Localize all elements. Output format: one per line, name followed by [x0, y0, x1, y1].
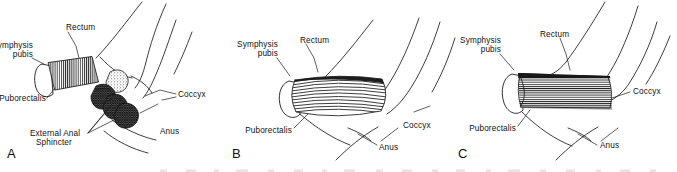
- label-external-anal-sphincter-a-line1: External Anal: [30, 129, 80, 138]
- panel-letter-b: B: [232, 146, 241, 161]
- label-symphysis-pubis-a-line2: pubis: [13, 50, 33, 59]
- figure-canvas: Symphysis pubis Rectum Puborectalis Exte…: [0, 0, 677, 172]
- label-rectum-b: Rectum: [300, 36, 329, 45]
- label-external-anal-sphincter-a-line2: Sphincter: [36, 138, 72, 147]
- label-anus-a: Anus: [160, 127, 179, 136]
- label-puborectalis-b: Puborectalis: [245, 126, 292, 135]
- label-coccyx-b: Coccyx: [403, 121, 431, 130]
- panel-letter-c: C: [458, 146, 467, 161]
- label-symphysis-pubis-b-line1: Symphysis: [237, 40, 278, 49]
- anatomical-figure: Symphysis pubis Rectum Puborectalis Exte…: [0, 0, 677, 172]
- label-rectum-c: Rectum: [540, 30, 569, 39]
- label-anus-c: Anus: [600, 141, 619, 150]
- label-symphysis-pubis-c-line2: pubis: [481, 45, 501, 54]
- label-coccyx-a: Coccyx: [178, 90, 206, 99]
- label-puborectalis-a: Puborectalis: [0, 94, 46, 103]
- label-coccyx-c: Coccyx: [633, 87, 661, 96]
- label-puborectalis-c: Puborectalis: [469, 124, 516, 133]
- label-anus-b: Anus: [379, 143, 398, 152]
- label-symphysis-pubis-c-line1: Symphysis: [460, 36, 501, 45]
- label-rectum-a: Rectum: [66, 23, 95, 32]
- panel-letter-a: A: [7, 146, 16, 161]
- label-symphysis-pubis-b-line2: pubis: [258, 49, 278, 58]
- label-symphysis-pubis-a-line1: Symphysis: [0, 41, 33, 50]
